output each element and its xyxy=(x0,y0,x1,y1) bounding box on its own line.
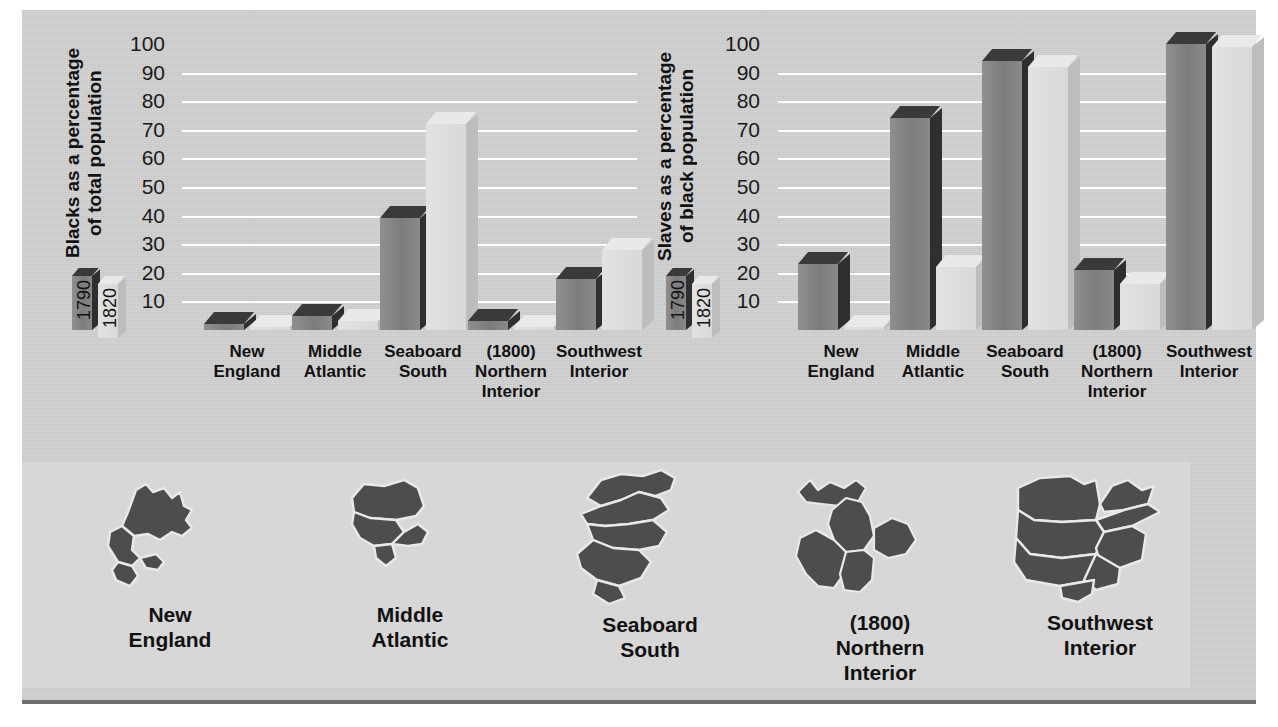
bar-front-face xyxy=(204,324,244,330)
bar-front-face xyxy=(890,118,930,330)
y-tick-20: 20 xyxy=(142,262,165,283)
y-tick-10: 10 xyxy=(737,290,760,311)
y-tick-20: 20 xyxy=(737,262,760,283)
bar-1790-2 xyxy=(380,206,420,330)
chart-blacks-share: Blacks as a percentage of total populati… xyxy=(22,0,642,430)
bar-side-face xyxy=(466,114,478,330)
y-tick-80: 80 xyxy=(737,90,760,111)
y-tick-100: 100 xyxy=(130,33,165,54)
bar-1790-3 xyxy=(1074,258,1114,330)
map-label-seaboard-south: Seaboard South xyxy=(535,612,765,662)
plot-area-right: New EnglandMiddle AtlanticSeaboard South… xyxy=(778,0,1248,334)
middle-atlantic-map-icon xyxy=(300,462,520,602)
x-axis-label-4: Southwest Interior xyxy=(544,342,654,382)
y-axis-title-left: Blacks as a percentage of total populati… xyxy=(62,28,106,278)
gridline-70 xyxy=(182,130,637,132)
gridline-80 xyxy=(182,101,637,103)
bar-1820-1 xyxy=(936,255,976,330)
legend-label-1820: 1820 xyxy=(694,288,715,328)
bar-front-face xyxy=(982,61,1022,330)
figure-root: Blacks as a percentage of total populati… xyxy=(0,0,1278,727)
bar-1790-4 xyxy=(556,267,596,330)
gridline-50 xyxy=(182,187,637,189)
new-england-map-icon xyxy=(60,462,280,602)
bar-1790-1 xyxy=(890,106,930,330)
y-tick-50: 50 xyxy=(737,176,760,197)
map-label-middle-atlantic: Middle Atlantic xyxy=(300,602,520,652)
x-axis-label-4: Southwest Interior xyxy=(1154,342,1264,382)
bar-front-face xyxy=(602,250,642,330)
bar-1820-3 xyxy=(514,315,554,330)
bar-1790-0 xyxy=(204,312,244,330)
y-tick-100: 100 xyxy=(725,33,760,54)
bar-front-face xyxy=(426,124,466,330)
bar-front-face xyxy=(250,327,290,330)
bar-1820-0 xyxy=(844,315,884,330)
bar-front-face xyxy=(380,218,420,330)
bar-front-face xyxy=(844,327,884,330)
plot-area-left: New EnglandMiddle AtlanticSeaboard South… xyxy=(182,0,637,334)
bar-1820-0 xyxy=(250,315,290,330)
bar-1820-2 xyxy=(1028,55,1068,330)
bar-1820-1 xyxy=(338,309,378,330)
bar-front-face xyxy=(1028,67,1068,330)
map-cell-new-england: New England xyxy=(60,462,280,688)
bar-1790-2 xyxy=(982,49,1022,330)
y-tick-70: 70 xyxy=(142,119,165,140)
bar-front-face xyxy=(1212,47,1252,330)
y-tick-60: 60 xyxy=(737,147,760,168)
y-tick-30: 30 xyxy=(737,233,760,254)
gridline-60 xyxy=(182,158,637,160)
y-axis-title-right: Slaves as a percentage of black populati… xyxy=(654,26,698,286)
southwest-interior-map-icon xyxy=(1000,462,1200,612)
bar-front-face xyxy=(514,327,554,330)
map-cell-northern-interior: (1800) Northern Interior xyxy=(770,462,990,688)
y-tick-40: 40 xyxy=(142,205,165,226)
map-cell-middle-atlantic: Middle Atlantic xyxy=(300,462,520,688)
bar-front-face xyxy=(1120,284,1160,330)
bar-1820-4 xyxy=(602,238,642,330)
bar-1820-3 xyxy=(1120,272,1160,330)
y-tick-60: 60 xyxy=(142,147,165,168)
bar-front-face xyxy=(338,321,378,330)
bar-1790-0 xyxy=(798,252,838,330)
legend-label-1790: 1790 xyxy=(74,280,95,320)
y-tick-10: 10 xyxy=(142,290,165,311)
bottom-rule xyxy=(22,700,1256,704)
bar-front-face xyxy=(936,267,976,330)
map-label-new-england: New England xyxy=(60,602,280,652)
y-tick-30: 30 xyxy=(142,233,165,254)
bar-front-face xyxy=(468,321,508,330)
y-tick-40: 40 xyxy=(737,205,760,226)
bar-side-face xyxy=(1252,37,1264,330)
legend-label-1820: 1820 xyxy=(100,288,121,328)
bar-1820-2 xyxy=(426,112,466,330)
map-label-southwest-interior: Southwest Interior xyxy=(1000,610,1200,660)
bar-front-face xyxy=(1074,270,1114,330)
bar-1820-4 xyxy=(1212,35,1252,330)
bar-1790-4 xyxy=(1166,32,1206,330)
bar-1790-3 xyxy=(468,309,508,330)
northern-interior-map-icon xyxy=(770,462,990,612)
y-tick-80: 80 xyxy=(142,90,165,111)
seaboard-south-map-icon xyxy=(535,462,765,612)
y-tick-90: 90 xyxy=(142,62,165,83)
map-label-northern-interior: (1800) Northern Interior xyxy=(770,610,990,685)
y-tick-50: 50 xyxy=(142,176,165,197)
bar-front-face xyxy=(798,264,838,330)
y-tick-70: 70 xyxy=(737,119,760,140)
bar-front-face xyxy=(1166,44,1206,330)
bar-1790-1 xyxy=(292,304,332,330)
gridline-90 xyxy=(182,73,637,75)
legend-right: 17901820 xyxy=(666,268,736,348)
bar-front-face xyxy=(292,316,332,330)
chart-slaves-share: Slaves as a percentage of black populati… xyxy=(640,0,1260,430)
y-tick-90: 90 xyxy=(737,62,760,83)
bar-front-face xyxy=(556,279,596,330)
legend-label-1790: 1790 xyxy=(668,280,689,320)
map-cell-southwest-interior: Southwest Interior xyxy=(1000,462,1200,688)
map-cell-seaboard-south: Seaboard South xyxy=(535,462,765,688)
legend-left: 17901820 xyxy=(72,268,142,348)
